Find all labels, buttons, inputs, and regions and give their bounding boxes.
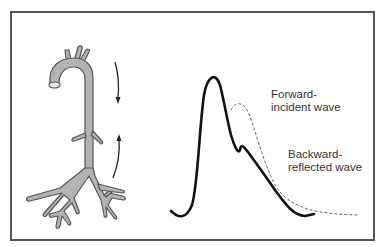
- backward-label-line1: Backward-: [288, 148, 362, 161]
- forward-label-line2: incident wave: [271, 101, 341, 114]
- up-arrow-icon: [113, 134, 122, 178]
- down-arrow-icon: [115, 62, 121, 104]
- diagram-canvas: [0, 0, 383, 247]
- forward-incident-wave-label: Forward- incident wave: [271, 88, 341, 114]
- backward-label-line2: reflected wave: [288, 161, 362, 174]
- forward-label-line1: Forward-: [271, 88, 341, 101]
- aorta-icon: [27, 46, 126, 228]
- backward-reflected-wave-label: Backward- reflected wave: [288, 148, 362, 174]
